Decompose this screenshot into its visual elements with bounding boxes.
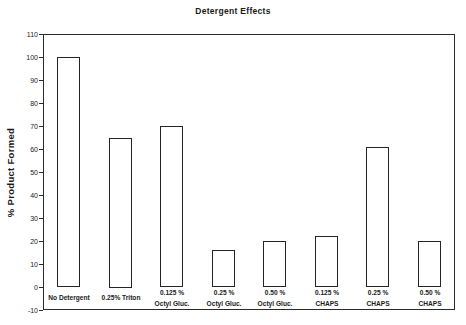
y-tick-mark: [39, 241, 43, 242]
y-tick-mark: [39, 195, 43, 196]
y-tick-mark: [39, 287, 43, 288]
bar-7: [418, 241, 441, 287]
y-tick-mark: [39, 310, 43, 311]
detergent-effects-chart: Detergent Effects % Product Formed 11010…: [0, 0, 466, 325]
y-tick-label: 90: [0, 77, 38, 84]
y-tick-label: 0: [0, 284, 38, 291]
y-tick-mark: [39, 264, 43, 265]
y-tick-label: -10: [0, 307, 38, 314]
y-tick-mark: [39, 57, 43, 58]
x-category-label: 0.25 % Octyl Gluc.: [199, 288, 249, 309]
y-tick-mark: [39, 126, 43, 127]
y-tick-label: 70: [0, 123, 38, 130]
y-tick-label: 20: [0, 238, 38, 245]
x-category-label: 0.50 % Octyl Gluc.: [250, 288, 300, 309]
y-tick-mark: [39, 80, 43, 81]
y-tick-label: 30: [0, 215, 38, 222]
bar-2: [160, 126, 183, 287]
x-category-label: 0.125 % Octyl Gluc.: [147, 288, 197, 309]
bar-1: [109, 138, 132, 288]
x-category-label: No Detergent: [44, 288, 94, 309]
x-category-label: 0.25% Triton: [96, 288, 146, 309]
x-category-label: 0.50 % CHAPS: [405, 288, 455, 309]
y-tick-mark: [39, 103, 43, 104]
y-tick-mark: [39, 34, 43, 35]
y-tick-label: 50: [0, 169, 38, 176]
bar-0: [57, 57, 80, 287]
y-tick-label: 60: [0, 146, 38, 153]
y-tick-mark: [39, 149, 43, 150]
y-tick-mark: [39, 172, 43, 173]
y-tick-label: 80: [0, 100, 38, 107]
bar-4: [263, 241, 286, 287]
y-tick-label: 110: [0, 31, 38, 38]
x-category-label: 0.25 % CHAPS: [353, 288, 403, 309]
bar-3: [212, 250, 235, 287]
y-tick-label: 40: [0, 192, 38, 199]
y-tick-label: 100: [0, 54, 38, 61]
y-tick-mark: [39, 218, 43, 219]
bar-5: [315, 236, 338, 287]
chart-title: Detergent Effects: [0, 6, 466, 16]
bar-6: [366, 147, 389, 287]
x-category-label: 0.125 % CHAPS: [302, 288, 352, 309]
plot-frame: [43, 34, 455, 310]
y-tick-label: 10: [0, 261, 38, 268]
